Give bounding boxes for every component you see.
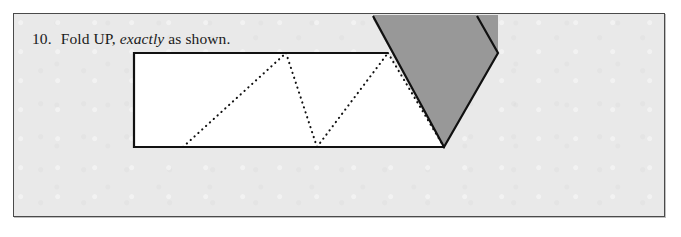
figure-panel: 10.Fold UP, exactly as shown. [13,13,665,217]
paper-strip-face [134,53,444,147]
figure-page: 10.Fold UP, exactly as shown. [0,0,681,237]
fold-up-paper-diagram [14,14,666,218]
